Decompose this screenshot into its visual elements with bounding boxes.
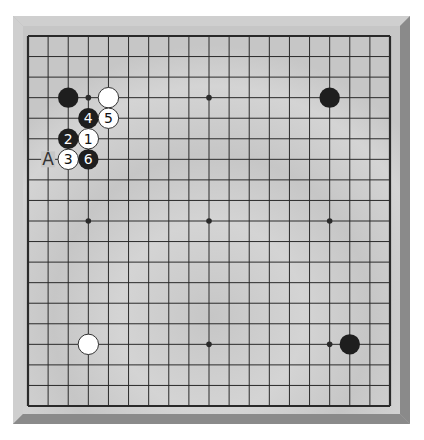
white-stone[interactable]: [98, 87, 118, 107]
black-stone[interactable]: [319, 87, 339, 107]
move-number: 3: [64, 151, 73, 167]
move-number: 2: [64, 131, 73, 147]
star-point: [206, 95, 212, 101]
move-number: 5: [104, 110, 113, 126]
black-stone-6[interactable]: 6: [78, 149, 98, 169]
star-point: [86, 218, 92, 224]
star-point: [327, 218, 333, 224]
white-stone[interactable]: [78, 334, 98, 354]
black-stone-4[interactable]: 4: [78, 108, 98, 128]
black-stone-2[interactable]: 2: [58, 129, 78, 149]
white-stone-1[interactable]: 1: [78, 129, 98, 149]
marker-label: A: [42, 149, 54, 169]
board-canvas[interactable]: A123456: [0, 0, 424, 440]
black-stone[interactable]: [340, 334, 360, 354]
move-number: 6: [84, 151, 93, 167]
star-point: [327, 342, 333, 348]
point-marker-a[interactable]: A: [41, 149, 55, 169]
white-stone-5[interactable]: 5: [98, 108, 118, 128]
white-stone-3[interactable]: 3: [58, 149, 78, 169]
star-point: [206, 218, 212, 224]
move-number: 1: [84, 131, 93, 147]
star-point: [86, 95, 92, 101]
move-number: 4: [84, 110, 93, 126]
go-board[interactable]: A123456: [13, 16, 410, 424]
star-point: [206, 342, 212, 348]
black-stone[interactable]: [58, 87, 78, 107]
